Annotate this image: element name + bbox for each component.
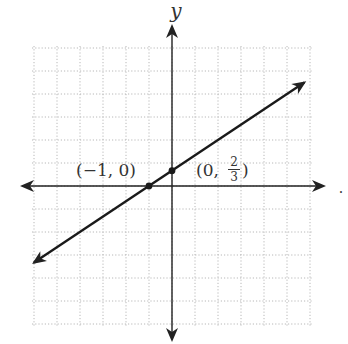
data-line — [29, 76, 310, 269]
line-arrow-start-icon — [29, 251, 47, 269]
fraction-denominator: 3 — [230, 170, 238, 184]
axes — [20, 24, 326, 342]
label-suffix: ) — [242, 160, 249, 180]
data-point — [146, 183, 153, 190]
point-label-y-intercept: (0, 2 3 ) — [196, 155, 249, 184]
coordinate-plane: y . (−1, 0) (0, 2 3 ) — [0, 0, 348, 344]
data-point — [169, 167, 176, 174]
label-prefix: (0, — [196, 160, 219, 180]
graph-stage: y . (−1, 0) (0, 2 3 ) — [0, 0, 348, 344]
point-label-x-intercept: (−1, 0) — [76, 160, 136, 180]
x-axis-label: . — [339, 180, 343, 196]
line-arrow-end-icon — [291, 76, 309, 94]
fraction-numerator: 2 — [230, 155, 238, 169]
y-axis-label: y — [169, 0, 182, 23]
